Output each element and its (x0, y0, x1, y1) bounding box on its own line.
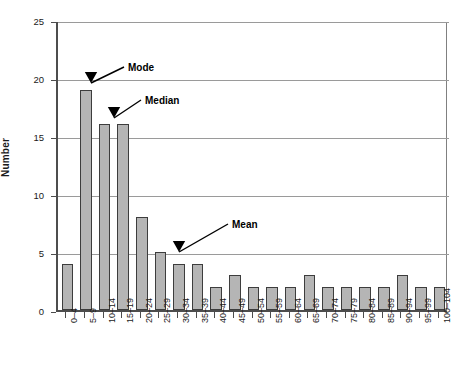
x-tick-label: 0–4 (69, 308, 79, 323)
y-tick-label: 20 (4, 75, 44, 85)
y-tick-mark (51, 254, 56, 255)
x-tick-mark (326, 312, 327, 318)
x-tick-mark (84, 312, 85, 318)
x-tick-label: 100–104 (442, 288, 452, 323)
bar (80, 90, 92, 310)
x-tick-label: 15–19 (125, 298, 135, 323)
x-tick-label: 75–79 (349, 298, 359, 323)
x-tick-mark (177, 312, 178, 318)
x-axis-labels: 0–45–910–1415–1920–2425–2930–3435–3940–4… (56, 320, 447, 376)
x-tick-mark (419, 312, 420, 318)
y-axis-labels: 0510152025 (0, 0, 52, 377)
x-tick-label: 45–49 (237, 298, 247, 323)
x-tick-mark (233, 312, 234, 318)
y-tick-mark (51, 80, 56, 81)
x-tick-mark (289, 312, 290, 318)
x-tick-label: 30–34 (181, 298, 191, 323)
x-tick-mark (270, 312, 271, 318)
x-tick-label: 35–39 (200, 298, 210, 323)
bar (136, 217, 148, 310)
annotation-label-median: Median (145, 95, 179, 106)
x-tick-label: 5–9 (88, 308, 98, 323)
x-tick-mark (158, 312, 159, 318)
x-tick-mark (400, 312, 401, 318)
y-tick-label: 15 (4, 133, 44, 143)
x-tick-label: 20–24 (144, 298, 154, 323)
y-tick-mark (51, 22, 56, 23)
x-tick-mark (382, 312, 383, 318)
y-tick-mark (51, 138, 56, 139)
x-tick-mark (363, 312, 364, 318)
x-tick-label: 95–99 (423, 298, 433, 323)
y-tick-label: 5 (4, 249, 44, 259)
x-tick-mark (103, 312, 104, 318)
x-tick-mark (140, 312, 141, 318)
x-tick-mark (196, 312, 197, 318)
x-tick-mark (438, 312, 439, 318)
bar (117, 124, 129, 310)
y-tick-label: 25 (4, 17, 44, 27)
bar (62, 264, 74, 310)
x-tick-mark (121, 312, 122, 318)
x-tick-label: 90–94 (404, 298, 414, 323)
y-tick-label: 10 (4, 191, 44, 201)
x-tick-mark (345, 312, 346, 318)
histogram-chart: Number 0510152025 0–45–910–1415–1920–242… (0, 0, 463, 377)
x-tick-label: 50–54 (256, 298, 266, 323)
y-tick-mark (51, 196, 56, 197)
x-tick-mark (65, 312, 66, 318)
plot-area (56, 22, 447, 312)
annotation-label-mean: Mean (232, 219, 258, 230)
x-tick-label: 70–74 (330, 298, 340, 323)
x-tick-label: 60–64 (293, 298, 303, 323)
x-tick-mark (214, 312, 215, 318)
y-tick-mark (51, 312, 56, 313)
x-tick-label: 85–89 (386, 298, 396, 323)
x-tick-label: 80–84 (367, 298, 377, 323)
x-tick-label: 10–14 (107, 298, 117, 323)
x-tick-label: 40–44 (218, 298, 228, 323)
x-tick-mark (252, 312, 253, 318)
x-tick-mark (307, 312, 308, 318)
x-tick-label: 55–59 (274, 298, 284, 323)
bar (99, 124, 111, 310)
y-tick-label: 0 (4, 307, 44, 317)
x-tick-label: 25–29 (162, 298, 172, 323)
annotation-label-mode: Mode (128, 62, 154, 73)
bar-series (58, 20, 449, 310)
x-tick-label: 65–69 (311, 298, 321, 323)
